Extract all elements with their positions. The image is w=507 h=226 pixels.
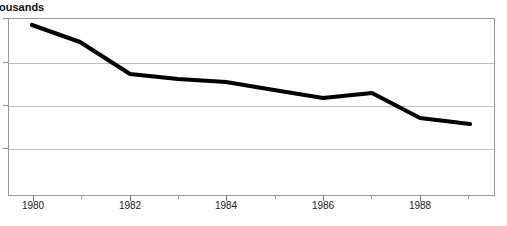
y-tick-1 [3, 62, 8, 63]
x-label-1982: 1982 [119, 200, 141, 211]
gridline-1 [9, 63, 494, 64]
x-label-1988: 1988 [409, 200, 431, 211]
y-tick-0 [3, 18, 8, 19]
x-tick-1985 [275, 196, 276, 199]
gridline-3 [9, 149, 494, 150]
x-label-1984: 1984 [215, 200, 237, 211]
x-tick-1987 [371, 196, 372, 199]
x-tick-1989 [468, 196, 469, 199]
line-chart: ousands 1980 1982 1984 1986 1988 [0, 0, 507, 226]
plot-area [8, 18, 495, 196]
chart-unit-title: ousands [0, 0, 44, 14]
x-tick-1981 [81, 196, 82, 199]
x-label-1986: 1986 [312, 200, 334, 211]
gridline-2 [9, 106, 494, 107]
x-tick-1983 [178, 196, 179, 199]
y-tick-3 [3, 148, 8, 149]
y-tick-2 [3, 105, 8, 106]
x-label-1980: 1980 [22, 200, 44, 211]
